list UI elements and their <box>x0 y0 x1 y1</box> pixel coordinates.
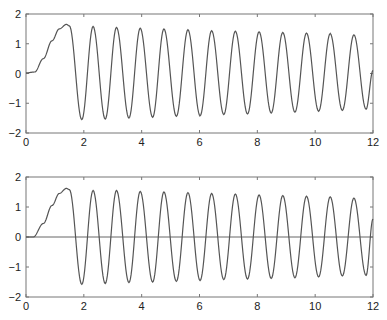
x-tick-label: 4 <box>139 300 145 312</box>
x-tick-label: 6 <box>196 136 202 148</box>
y-tick-label: 0 <box>15 68 21 80</box>
y-tick-label: −1 <box>8 97 21 109</box>
signal-line <box>26 188 373 284</box>
x-tick-label: 2 <box>81 300 87 312</box>
y-tick-label: 2 <box>15 8 21 20</box>
top-plot: 024681012−2−1012 <box>8 8 379 148</box>
signal-line <box>26 24 373 119</box>
x-tick-label: 8 <box>254 300 260 312</box>
x-tick-label: 10 <box>309 136 321 148</box>
bottom-plot: 024681012−2−1012 <box>8 171 379 312</box>
y-tick-label: 0 <box>15 231 21 243</box>
x-tick-label: 12 <box>367 300 379 312</box>
x-tick-label: 12 <box>367 136 379 148</box>
y-tick-label: −2 <box>8 127 21 139</box>
x-tick-label: 6 <box>196 300 202 312</box>
x-tick-label: 4 <box>139 136 145 148</box>
x-tick-label: 2 <box>81 136 87 148</box>
x-tick-label: 0 <box>23 136 29 148</box>
figure: 024681012−2−1012 024681012−2−1012 <box>0 0 387 320</box>
y-tick-label: 1 <box>15 201 21 213</box>
x-tick-label: 8 <box>254 136 260 148</box>
y-tick-label: 2 <box>15 171 21 183</box>
x-tick-label: 10 <box>309 300 321 312</box>
y-tick-label: 1 <box>15 38 21 50</box>
y-tick-label: −1 <box>8 261 21 273</box>
x-tick-label: 0 <box>23 300 29 312</box>
y-tick-label: −2 <box>8 291 21 303</box>
